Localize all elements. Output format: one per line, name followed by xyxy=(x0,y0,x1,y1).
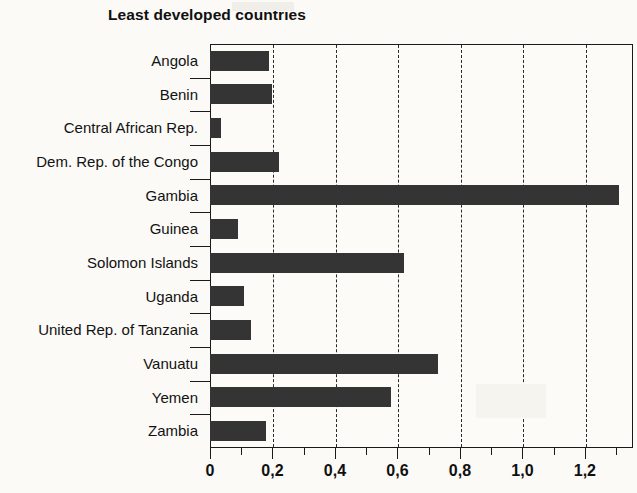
y-axis-tick xyxy=(190,212,210,213)
y-axis-label-guinea: Guinea xyxy=(150,212,198,246)
y-axis-label-dem-rep-of-the-congo: Dem. Rep. of the Congo xyxy=(36,145,198,179)
y-axis-tick xyxy=(190,414,210,415)
bar-row xyxy=(210,111,633,145)
x-axis-minor-tick xyxy=(554,448,555,455)
y-axis-label-central-african-rep: Central African Rep. xyxy=(64,111,198,145)
x-axis-label-0,8: 0,8 xyxy=(449,462,471,480)
y-axis-category-labels: AngolaBeninCentral African Rep.Dem. Rep.… xyxy=(0,44,210,448)
x-axis-label-0: 0 xyxy=(206,462,215,480)
x-axis-tick-0,6 xyxy=(397,448,398,459)
y-axis-tick xyxy=(190,347,210,348)
y-axis-label-benin: Benin xyxy=(160,78,198,112)
chart-title: Least developed countries xyxy=(0,6,414,24)
x-axis-minor-tick xyxy=(491,448,492,455)
x-axis-tick-0,2 xyxy=(272,448,273,459)
x-axis-minor-tick xyxy=(304,448,305,455)
bar-vanuatu xyxy=(210,354,438,374)
x-axis-tick-0,8 xyxy=(460,448,461,459)
y-axis-tick xyxy=(190,179,210,180)
bar-yemen xyxy=(210,387,391,407)
x-axis-label-1,2: 1,2 xyxy=(574,462,596,480)
bar-row xyxy=(210,212,633,246)
bar-row xyxy=(210,381,633,415)
x-axis-tick-0,4 xyxy=(335,448,336,459)
bar-united-rep-of-tanzania xyxy=(210,320,251,340)
y-axis-tick xyxy=(190,381,210,382)
x-axis-minor-tick xyxy=(616,448,617,455)
bar-row xyxy=(210,347,633,381)
y-axis-label-united-rep-of-tanzania: United Rep. of Tanzania xyxy=(38,313,198,347)
bar-row xyxy=(210,179,633,213)
x-axis-minor-tick xyxy=(241,448,242,455)
y-axis-tick xyxy=(190,145,210,146)
y-axis-label-yemen: Yemen xyxy=(152,381,198,415)
x-axis-tick-0 xyxy=(210,448,211,459)
bar-gambia xyxy=(210,185,619,205)
x-axis-label-0,2: 0,2 xyxy=(261,462,283,480)
x-axis-tick-1,2 xyxy=(585,448,586,459)
y-axis-tick xyxy=(190,111,210,112)
bar-benin xyxy=(210,84,272,104)
x-axis-label-1,0: 1,0 xyxy=(511,462,533,480)
bars-layer xyxy=(210,44,633,448)
bar-row xyxy=(210,246,633,280)
x-axis-minor-tick xyxy=(429,448,430,455)
bar-row xyxy=(210,280,633,314)
bar-row xyxy=(210,44,633,78)
y-axis-label-zambia: Zambia xyxy=(148,414,198,448)
bar-row xyxy=(210,145,633,179)
x-axis-label-0,4: 0,4 xyxy=(324,462,346,480)
y-axis-tick xyxy=(190,246,210,247)
y-axis-label-gambia: Gambia xyxy=(145,179,198,213)
y-axis-label-uganda: Uganda xyxy=(145,280,198,314)
bar-row xyxy=(210,313,633,347)
bar-row xyxy=(210,414,633,448)
bar-central-african-rep xyxy=(210,118,221,138)
bar-chart-figure: Least developed countries AngolaBeninCen… xyxy=(0,0,637,493)
bar-uganda xyxy=(210,286,244,306)
bar-angola xyxy=(210,51,269,71)
y-axis-tick xyxy=(190,313,210,314)
x-axis-minor-tick xyxy=(366,448,367,455)
bar-dem-rep-of-the-congo xyxy=(210,152,279,172)
y-axis-tick xyxy=(190,280,210,281)
x-axis: 00,20,40,60,81,01,2 xyxy=(210,448,633,493)
x-axis-tick-1,0 xyxy=(522,448,523,459)
y-axis-label-solomon-islands: Solomon Islands xyxy=(87,246,198,280)
y-axis-label-angola: Angola xyxy=(151,44,198,78)
y-axis-label-vanuatu: Vanuatu xyxy=(143,347,198,381)
x-axis-label-0,6: 0,6 xyxy=(386,462,408,480)
bar-guinea xyxy=(210,219,238,239)
bar-solomon-islands xyxy=(210,253,404,273)
bar-row xyxy=(210,78,633,112)
y-axis-tick xyxy=(190,78,210,79)
bar-zambia xyxy=(210,421,266,441)
